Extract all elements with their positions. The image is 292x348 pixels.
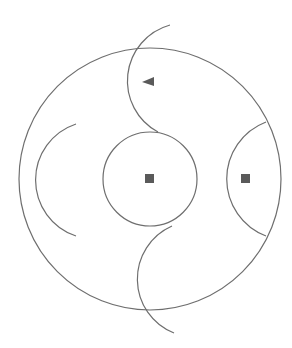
left-arc [36, 124, 76, 236]
circle-diagram [0, 0, 292, 348]
bottom-arc [137, 226, 174, 333]
center-square-marker [145, 174, 154, 183]
triangle-marker [142, 77, 154, 86]
diagram-canvas [0, 0, 292, 348]
top-arc [127, 25, 170, 132]
right-square-marker [241, 174, 250, 183]
